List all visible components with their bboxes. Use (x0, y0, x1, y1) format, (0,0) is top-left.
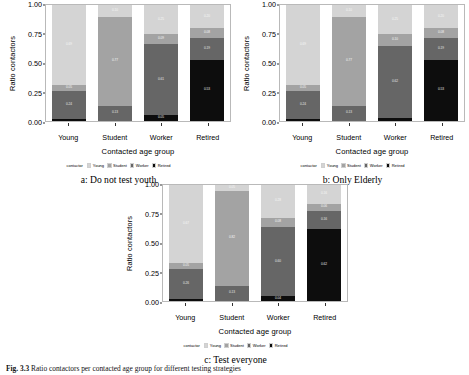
bar-segment[interactable]: 0.04 (261, 296, 296, 301)
legend-item[interactable]: Student (224, 343, 244, 348)
bar-group[interactable]: 0.240.050.69 (46, 5, 92, 121)
x-axis-tick: Worker (267, 313, 290, 322)
bar-segment[interactable]: 0.05 (169, 263, 204, 269)
bar-segment[interactable] (286, 119, 321, 121)
legend-label: Retired (158, 163, 171, 168)
bar-segment[interactable] (378, 118, 413, 121)
bar-group[interactable]: 0.260.050.67 (163, 185, 209, 301)
bar-segment[interactable]: 0.82 (215, 191, 250, 286)
bar-segment[interactable]: 0.19 (424, 38, 459, 60)
bar-segment[interactable]: 0.08 (190, 28, 225, 37)
legend-item[interactable]: Retired (386, 163, 405, 168)
bar-segment[interactable] (52, 119, 87, 121)
bar-segment[interactable]: 0.08 (261, 218, 296, 227)
bar-group[interactable]: 0.050.610.090.25 (138, 5, 184, 121)
bar-segment[interactable]: 0.16 (307, 211, 342, 230)
bar-segment[interactable]: 0.24 (286, 91, 321, 119)
legend-item[interactable]: Student (107, 163, 127, 168)
bar-group[interactable]: 0.530.190.080.20 (184, 5, 230, 121)
bar-value-label: 0.20 (190, 15, 225, 18)
legend-item[interactable]: Worker (130, 163, 149, 168)
bar-group[interactable]: 0.530.190.080.20 (418, 5, 464, 121)
bar-segment[interactable]: 0.05 (215, 185, 250, 191)
bar-group[interactable]: 0.040.600.080.28 (255, 185, 301, 301)
legend-swatch-icon (247, 343, 252, 348)
bar-value-label: 0.61 (144, 78, 179, 81)
bar-value-label: 0.25 (144, 18, 179, 21)
bar-segment[interactable]: 0.13 (332, 106, 367, 121)
bar-segment[interactable]: 0.10 (98, 5, 133, 17)
bar-value-label: 0.82 (215, 237, 250, 240)
legend-item[interactable]: Retired (269, 343, 288, 348)
bar-segment[interactable]: 0.26 (169, 269, 204, 299)
x-axis-label: Contacted age group (45, 147, 231, 156)
bar-segment[interactable]: 0.09 (144, 34, 179, 44)
bar-segment[interactable]: 0.77 (332, 17, 367, 106)
bar-segment[interactable]: 0.10 (378, 34, 413, 46)
bar-value-label: 0.13 (332, 112, 367, 115)
legend-item[interactable]: Young (87, 163, 104, 168)
x-axis-label: Contacted age group (162, 327, 348, 336)
bar-segment[interactable]: 0.61 (144, 44, 179, 115)
y-axis-tick: 0.25 (262, 88, 276, 97)
bar-group[interactable]: 0.130.770.10 (92, 5, 138, 121)
legend-item[interactable]: Student (341, 163, 361, 168)
bar-group[interactable]: 0.240.050.69 (280, 5, 326, 121)
bar-segment[interactable]: 0.20 (190, 5, 225, 28)
bar-group[interactable]: 0.620.160.060.16 (301, 185, 347, 301)
bar-value-label: 0.13 (98, 112, 133, 115)
y-axis-tick: 0.00 (28, 118, 42, 127)
legend-item[interactable]: Young (321, 163, 338, 168)
legend-item[interactable]: Worker (247, 343, 266, 348)
bar-segment[interactable]: 0.24 (52, 91, 87, 119)
legend-item[interactable]: Young (204, 343, 221, 348)
bar-segment[interactable]: 0.13 (98, 106, 133, 121)
bar-segment[interactable]: 0.28 (261, 185, 296, 217)
bar-value-label: 0.08 (424, 31, 459, 34)
bar-segment[interactable]: 0.19 (190, 38, 225, 60)
bar-segment[interactable]: 0.69 (286, 5, 321, 85)
legend-item[interactable]: Worker (364, 163, 383, 168)
bar-value-label: 0.19 (190, 47, 225, 50)
figure-caption-number: Fig. 3.3 (6, 364, 29, 373)
bar-segment[interactable]: 0.69 (52, 5, 87, 85)
bar-segment[interactable]: 0.08 (424, 28, 459, 37)
bar-segment[interactable]: 0.53 (424, 60, 459, 121)
bar-segment[interactable]: 0.62 (378, 46, 413, 118)
bar-segment[interactable]: 0.13 (215, 286, 250, 301)
bar-segment[interactable]: 0.05 (286, 85, 321, 91)
legend-title: contactor (300, 163, 316, 168)
y-axis-label: Ratio contactors (6, 4, 19, 122)
x-axis-tick: Worker (150, 133, 173, 142)
bar-group[interactable]: 0.130.770.10 (326, 5, 372, 121)
panel-c: Ratio contactors0.000.250.500.751.000.26… (123, 184, 348, 365)
bar-segment[interactable]: 0.67 (169, 185, 204, 263)
bar-segment[interactable]: 0.25 (144, 5, 179, 34)
bar-segment[interactable]: 0.60 (261, 227, 296, 297)
bar-segment[interactable]: 0.62 (307, 229, 342, 301)
bar-segment[interactable]: 0.05 (144, 115, 179, 121)
bar-segment[interactable]: 0.16 (307, 185, 342, 204)
bar-value-label: 0.08 (261, 221, 296, 224)
bar-segment[interactable]: 0.20 (424, 5, 459, 28)
bar-value-label: 0.69 (286, 43, 321, 46)
bar-value-label: 0.10 (332, 9, 367, 12)
bar-segment[interactable]: 0.06 (307, 204, 342, 211)
bar-segment[interactable]: 0.77 (98, 17, 133, 106)
bar-segment[interactable] (169, 299, 204, 301)
bar-value-label: 0.60 (261, 260, 296, 263)
y-axis: 0.000.250.500.751.00 (253, 4, 279, 122)
bar-segment[interactable]: 0.10 (332, 5, 367, 17)
y-axis-tick: 0.00 (262, 118, 276, 127)
bar-segment[interactable]: 0.05 (52, 85, 87, 91)
plot-area: 0.260.050.670.130.820.050.040.600.080.28… (162, 184, 348, 302)
legend-label: Retired (275, 343, 288, 348)
bar-group[interactable]: 0.130.820.05 (209, 185, 255, 301)
bar-group[interactable]: 0.620.100.25 (372, 5, 418, 121)
bar-segment[interactable]: 0.25 (378, 5, 413, 34)
y-axis-tick: 0.75 (262, 29, 276, 38)
y-axis-tick: 0.75 (145, 209, 159, 218)
y-axis-label: Ratio contactors (240, 4, 253, 122)
legend-item[interactable]: Retired (152, 163, 171, 168)
bar-segment[interactable]: 0.53 (190, 60, 225, 121)
